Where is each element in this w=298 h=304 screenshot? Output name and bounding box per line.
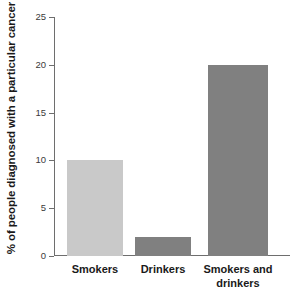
plot-area — [54, 17, 290, 256]
bar-smokers-and-drinkers — [208, 65, 268, 256]
bar-drinkers — [135, 237, 191, 256]
x-axis-label-drinkers: Drinkers — [121, 263, 205, 277]
y-axis-tick-label: 25 — [16, 12, 46, 22]
y-axis-title: % of people diagnosed with a particular … — [0, 0, 22, 256]
y-axis-tick — [49, 256, 54, 257]
y-axis-tick-label: 5 — [16, 203, 46, 213]
bar-chart-figure: % of people diagnosed with a particular … — [0, 0, 298, 304]
x-axis-label-line: drinkers — [194, 277, 282, 291]
y-axis-tick-label: 10 — [16, 155, 46, 165]
x-axis-label-line: Drinkers — [121, 263, 205, 277]
y-axis-tick-label: 20 — [16, 60, 46, 70]
y-axis-tick-label: 0 — [16, 251, 46, 261]
bar-smokers — [67, 160, 123, 256]
x-axis-label-smokers-and-drinkers: Smokers anddrinkers — [194, 263, 282, 291]
y-axis-tick-label: 15 — [16, 108, 46, 118]
x-axis-label-line: Smokers and — [194, 263, 282, 277]
